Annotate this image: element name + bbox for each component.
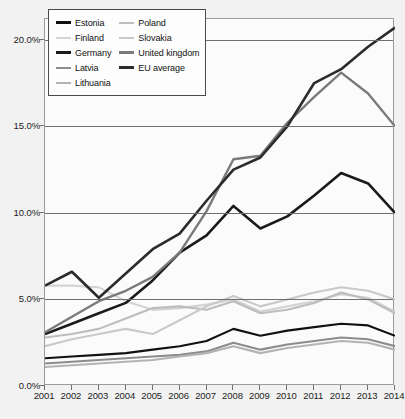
y-tick-mark [39,212,44,213]
legend: EstoniaFinlandGermanyLatviaLithuaniaPola… [48,9,206,96]
series-line [45,173,395,334]
x-tick-label: 2012 [330,390,351,401]
legend-item[interactable]: Estonia [56,15,111,30]
legend-swatch-icon [56,67,71,69]
x-tick-mark [313,385,314,390]
legend-label: Slovakia [138,33,171,43]
legend-column: EstoniaFinlandGermanyLatviaLithuania [56,15,111,90]
x-tick-mark [125,385,126,390]
x-tick-mark [152,385,153,390]
legend-swatch-icon [119,22,134,24]
x-tick-mark [286,385,287,390]
legend-item[interactable]: Germany [56,45,111,60]
x-tick-label: 2007 [195,390,216,401]
y-tick-label: 10.0% [14,206,40,217]
x-tick-label: 2010 [276,390,297,401]
y-tick-label: 15.0% [14,120,40,131]
x-tick-label: 2002 [61,390,82,401]
x-tick-mark [179,385,180,390]
legend-label: Latvia [75,63,98,73]
x-tick-label: 2004 [114,390,135,401]
x-tick-label: 2005 [141,390,162,401]
x-tick-mark [394,385,395,390]
legend-label: Finland [75,33,104,43]
legend-swatch-icon [119,51,134,54]
line-chart: 0.0%5.0%10.0%15.0%20.0% 2001200220032004… [0,0,405,419]
legend-label: EU average [138,63,185,73]
x-tick-label: 2003 [87,390,108,401]
y-tick-mark [39,125,44,126]
x-tick-label: 2008 [222,390,243,401]
legend-swatch-icon [56,51,71,54]
x-tick-mark [98,385,99,390]
x-tick-mark [44,385,45,390]
legend-column: PolandSlovakiaUnited kingdomEU average [119,15,199,90]
legend-swatch-icon [56,82,71,84]
x-tick-label: 2001 [34,390,55,401]
y-tick-label: 0.0% [19,380,40,391]
legend-label: Lithuania [75,78,111,88]
legend-swatch-icon [119,66,134,69]
legend-item[interactable]: Finland [56,30,111,45]
legend-item[interactable]: United kingdom [119,45,199,60]
x-tick-mark [206,385,207,390]
legend-item[interactable]: Slovakia [119,30,199,45]
legend-label: Estonia [75,18,104,28]
x-tick-mark [367,385,368,390]
legend-label: Germany [75,48,111,58]
y-tick-label: 20.0% [14,33,40,44]
y-tick-mark [39,39,44,40]
y-tick-label: 5.0% [19,293,40,304]
x-tick-label: 2013 [357,390,378,401]
gridline [45,299,393,300]
x-tick-mark [232,385,233,390]
legend-label: Poland [138,18,165,28]
y-tick-mark [39,298,44,299]
legend-item[interactable]: Poland [119,15,199,30]
x-axis: 2001200220032004200520062007200820092010… [44,388,394,408]
legend-item[interactable]: Lithuania [56,75,111,90]
gridline [45,126,393,127]
gridline [45,213,393,214]
legend-swatch-icon [119,37,134,39]
x-tick-mark [259,385,260,390]
legend-swatch-icon [56,37,71,39]
legend-item[interactable]: EU average [119,60,199,75]
x-tick-label: 2009 [249,390,270,401]
x-tick-mark [71,385,72,390]
x-tick-label: 2014 [384,390,405,401]
y-axis: 0.0%5.0%10.0%15.0%20.0% [0,18,40,385]
legend-label: United kingdom [138,48,199,58]
x-tick-label: 2011 [303,390,323,401]
x-tick-mark [340,385,341,390]
legend-swatch-icon [56,21,71,24]
x-tick-label: 2006 [168,390,189,401]
legend-item[interactable]: Latvia [56,60,111,75]
